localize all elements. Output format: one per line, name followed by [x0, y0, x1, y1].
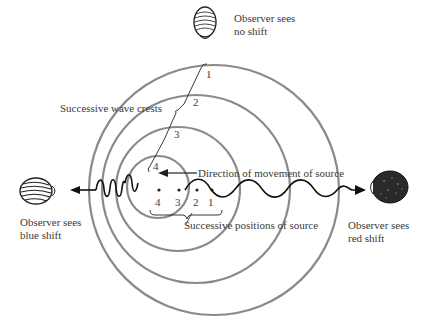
- crest-number-3: 3: [174, 128, 180, 140]
- observer-top-label-line1: Observer sees: [234, 12, 295, 24]
- observer-head-right: [371, 171, 409, 203]
- source-position-2: [195, 188, 198, 191]
- crest-number-1: 1: [206, 68, 212, 80]
- positions-label: Successive positions of source: [184, 219, 318, 231]
- direction-label: Direction of movement of source: [198, 167, 344, 179]
- red-shift-wave: [185, 179, 356, 197]
- position-number-2: 2: [193, 196, 199, 208]
- observer-right-label-line1: Observer sees: [348, 219, 409, 231]
- doppler-diagram: 1 2 3 4 Successive wave crests Direction…: [0, 0, 430, 328]
- blue-shift-arrow-head: [70, 186, 80, 194]
- observer-head-top: [194, 7, 216, 39]
- source-position-4: [157, 188, 160, 191]
- wave-crests-label: Successive wave crests: [60, 102, 162, 114]
- observer-right-label-line2: red shift: [348, 232, 384, 244]
- position-number-3: 3: [175, 196, 181, 208]
- crest-number-2: 2: [193, 96, 199, 108]
- position-number-1: 1: [208, 196, 214, 208]
- position-number-4: 4: [155, 196, 161, 208]
- observer-left-label-line2: blue shift: [20, 229, 61, 241]
- observer-left-label-line1: Observer sees: [20, 216, 81, 228]
- crest-number-4: 4: [153, 160, 159, 172]
- direction-arrow-head: [158, 169, 168, 177]
- red-shift-arrow-head: [355, 185, 366, 195]
- observer-head-left: [20, 178, 55, 204]
- source-position-3: [177, 188, 180, 191]
- observer-top-label-line2: no shift: [234, 25, 267, 37]
